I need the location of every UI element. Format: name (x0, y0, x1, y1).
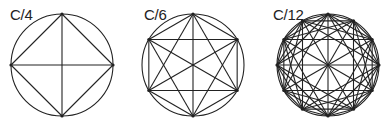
label-c6: C/6 (144, 6, 166, 23)
vertex-dot (60, 114, 63, 117)
vertex-dot (236, 38, 239, 41)
vertex-dot (377, 63, 380, 66)
vertex-dot (371, 89, 374, 92)
chord (193, 91, 237, 117)
chord (149, 91, 193, 117)
label-c12: C/12 (273, 6, 304, 23)
vertex-dot (147, 38, 150, 41)
vertex-dot (60, 12, 63, 15)
chord (62, 14, 113, 65)
label-c4: C/4 (10, 6, 32, 23)
chord (11, 65, 62, 116)
figure-c-6 (142, 12, 244, 117)
vertex-dot (191, 114, 194, 117)
vertex-dot (371, 38, 374, 41)
vertex-dot (275, 63, 278, 66)
vertex-dot (9, 63, 12, 66)
chord-diagrams (0, 0, 383, 129)
figure-c-12 (275, 12, 380, 117)
chord (193, 14, 237, 40)
vertex-dot (326, 12, 329, 15)
vertex-dot (282, 89, 285, 92)
vertex-dot (326, 114, 329, 117)
vertex-dot (111, 63, 114, 66)
vertex-dot (352, 19, 355, 22)
vertex-dot (282, 38, 285, 41)
figure-c-4 (9, 12, 114, 117)
vertex-dot (352, 108, 355, 111)
vertex-dot (147, 89, 150, 92)
chord (62, 65, 113, 116)
vertex-dot (191, 12, 194, 15)
vertex-dot (301, 108, 304, 111)
vertex-dot (236, 89, 239, 92)
